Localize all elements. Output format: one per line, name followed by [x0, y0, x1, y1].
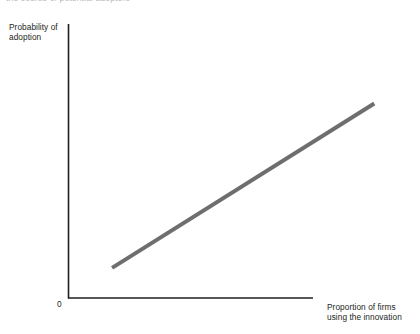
- chart-plot-area: [0, 0, 420, 334]
- origin-label: 0: [57, 299, 62, 309]
- y-axis-label: Probability of adoption: [9, 22, 65, 43]
- adoption-probability-line: [112, 103, 374, 267]
- x-axis-label: Proportion of firms using the innovation: [327, 302, 419, 323]
- figure-container: the course of potential adopters Probabi…: [0, 0, 420, 334]
